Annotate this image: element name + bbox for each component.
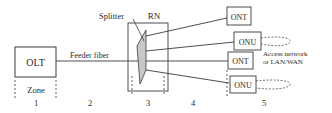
feeder-fiber: Feeder fiber [56,51,139,61]
zone-label: Zone [27,85,45,95]
access-network-label-2: or LAN/WAN [263,58,303,66]
splitter-label: Splitter [99,11,124,21]
endpoint-label: ONU [234,81,252,90]
ont-node: ONT [227,7,251,25]
pon-architecture-diagram: OLT Zone Feeder fiber RN Splitter ONT ON… [0,0,332,113]
splitter-leader-line [133,19,144,41]
access-network-label: Access network [263,50,308,58]
zone-numbers: 1 2 3 4 5 [34,98,266,108]
olt-label: OLT [26,57,45,68]
feeder-fiber-label: Feeder fiber [70,51,109,60]
onu-node: ONU [230,76,256,93]
remote-node: RN [128,11,168,96]
zone-number: 3 [146,98,150,108]
olt-node: OLT [15,47,56,77]
endpoint-label: ONT [231,13,248,22]
endpoint-label: ONU [239,38,257,47]
zone-number: 2 [88,98,92,108]
distribution-fibers [146,18,234,83]
rn-label: RN [148,11,161,21]
onu-node: ONU [234,32,261,50]
splitter: Splitter [99,11,146,84]
ont-node: ONT [228,52,253,69]
zone-number: 5 [262,98,266,108]
endpoint-label: ONT [232,57,249,66]
access-network-links: Access network or LAN/WAN [256,37,308,89]
zone-number: 1 [34,98,38,108]
zone-number: 4 [191,98,196,108]
